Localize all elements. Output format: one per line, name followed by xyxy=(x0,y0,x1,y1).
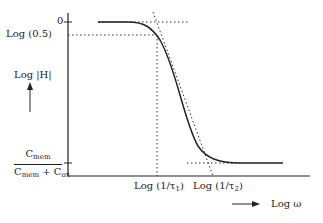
x-tick-tau1-label: Log (1/τ1) xyxy=(134,180,184,193)
ratio-numerator: Cmem xyxy=(14,148,62,163)
y-axis-label: Log |H| xyxy=(14,69,52,80)
dotted-tangent xyxy=(153,12,213,176)
x-tick-tau2-label: Log (1/τ2) xyxy=(193,180,243,193)
fraction-bar xyxy=(14,164,62,165)
y-tick-half-label: Log (0.5) xyxy=(6,28,52,39)
y-tick-capacitance-ratio: Cmem Cmem + Cox xyxy=(14,148,62,181)
y-arrowhead-icon xyxy=(27,82,33,90)
y-tick-zero-label: 0 xyxy=(57,15,63,26)
response-curve xyxy=(98,22,283,163)
x-arrowhead-icon xyxy=(252,201,260,207)
x-axis-label: Log ω xyxy=(271,198,301,209)
ratio-denominator: Cmem + Cox xyxy=(14,166,62,181)
